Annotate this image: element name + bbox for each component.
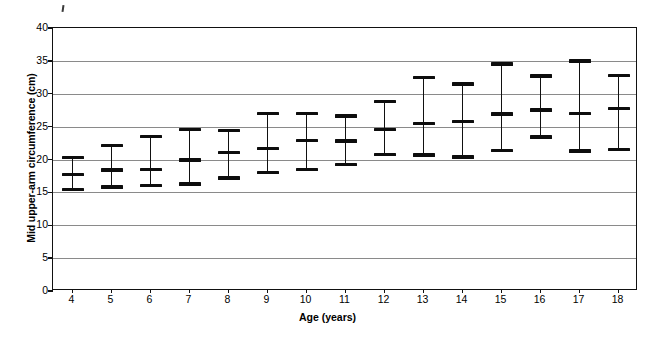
marker-cap-mid [491,112,513,115]
x-axis-tick-label: 14 [442,293,482,305]
x-axis-tick-label: 9 [247,293,287,305]
y-axis-tick [48,290,53,291]
marker-cap-bottom [62,188,84,191]
x-axis-title: Age (years) [0,311,655,323]
marker-cap-bottom [374,153,396,156]
whisker-line [228,131,229,178]
y-axis-tick-label: 15 [18,186,48,196]
x-axis-tick-label: 15 [481,293,521,305]
x-axis-tick-label: 7 [169,293,209,305]
x-axis-tick-label: 6 [130,293,170,305]
marker-cap-mid [257,147,279,150]
marker-cap-mid [140,168,162,171]
marker-cap-bottom [179,182,201,185]
marker-cap-top [608,74,630,77]
scan-artifact [62,5,65,12]
marker-cap-top [257,112,279,115]
marker-cap-top [101,144,123,147]
whisker-line [111,146,112,187]
y-axis-tick-label: 40 [18,22,48,32]
marker-cap-mid [101,168,123,171]
x-axis-tick-label: 11 [325,293,365,305]
x-axis-tick-label: 12 [364,293,404,305]
marker-cap-mid [179,158,201,161]
whisker-line [579,61,580,151]
whisker-line [189,129,190,184]
whisker-line [618,75,619,149]
marker-cap-mid [62,173,84,176]
marker-cap-top [335,114,357,117]
marker-cap-mid [296,139,318,142]
marker-cap-bottom [140,184,162,187]
whisker-line [540,76,541,137]
marker-cap-bottom [452,155,474,158]
marker-cap-mid [569,112,591,115]
marker-cap-top [62,156,84,159]
marker-cap-mid [452,120,474,123]
marker-cap-bottom [608,148,630,151]
marker-cap-bottom [569,149,591,152]
whisker-line [423,77,424,155]
marker-cap-top [569,59,591,62]
whisker-line [267,113,268,172]
marker-cap-bottom [335,163,357,166]
y-axis-tick-label: 30 [18,88,48,98]
marker-cap-bottom [491,149,513,152]
whisker-line [150,136,151,185]
y-axis-tick-label: 0 [18,285,48,295]
marker-cap-bottom [530,135,552,138]
marker-cap-top [491,62,513,65]
y-axis-tick-label: 35 [18,55,48,65]
y-axis-tick-label: 20 [18,154,48,164]
x-axis-tick-label: 10 [286,293,326,305]
y-axis-tick-label: 5 [18,252,48,262]
marker-cap-mid [608,107,630,110]
marker-cap-bottom [257,171,279,174]
x-axis-tick-label: 5 [91,293,131,305]
marker-cap-bottom [101,185,123,188]
x-axis-tick-label: 8 [208,293,248,305]
marker-cap-top [296,112,318,115]
marker-cap-top [413,76,435,79]
y-axis-tick-labels: 0510152025303540 [14,27,48,290]
marker-cap-mid [335,139,357,142]
x-axis-tick-label: 4 [52,293,92,305]
x-axis-tick-labels: 456789101112131415161718 [52,293,637,311]
marker-cap-bottom [413,153,435,156]
y-axis-tick-label: 10 [18,219,48,229]
x-axis-tick-label: 13 [403,293,443,305]
marker-cap-top [140,135,162,138]
whisker-line [501,64,502,150]
marker-cap-mid [374,128,396,131]
marker-cap-bottom [218,176,240,179]
marker-cap-top [452,82,474,85]
marker-cap-top [218,129,240,132]
marker-cap-mid [413,122,435,125]
marker-cap-top [530,74,552,77]
data-markers-layer [53,28,636,289]
marker-cap-mid [218,151,240,154]
plot-area [52,27,637,290]
chart-figure: Mid upper-arm circumference (cm) 0510152… [0,0,655,340]
x-axis-tick-label: 18 [598,293,638,305]
marker-cap-top [179,128,201,131]
marker-cap-mid [530,108,552,111]
y-axis-tick-label: 25 [18,121,48,131]
marker-cap-bottom [296,168,318,171]
x-axis-tick-label: 16 [520,293,560,305]
x-axis-tick-label: 17 [559,293,599,305]
marker-cap-top [374,100,396,103]
